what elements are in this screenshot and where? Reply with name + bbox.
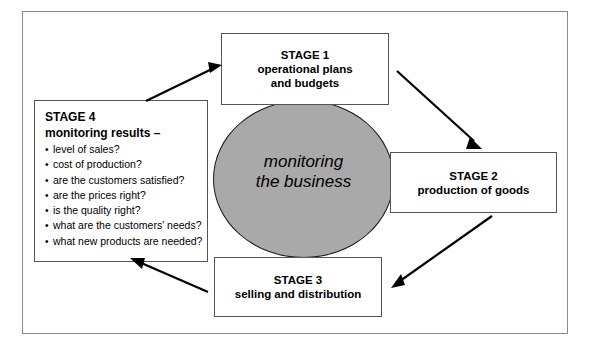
stage-box-stage4[interactable]: STAGE 4 monitoring results – level of sa… bbox=[34, 100, 208, 262]
list-item: is the quality right? bbox=[45, 203, 207, 218]
stage-box-stage2[interactable]: STAGE 2 production of goods bbox=[390, 152, 557, 213]
center-circle-label: monitoring the business bbox=[213, 152, 394, 192]
stage3-line2: selling and distribution bbox=[235, 287, 362, 301]
stage1-heading: STAGE 1 bbox=[281, 48, 329, 62]
stage2-heading: STAGE 2 bbox=[449, 169, 497, 183]
stage-box-stage1[interactable]: STAGE 1 operational plans and budgets bbox=[221, 33, 389, 105]
center-label-line2: the business bbox=[213, 172, 394, 192]
stage1-line3: and budgets bbox=[271, 76, 339, 90]
stage1-line2: operational plans bbox=[257, 62, 352, 76]
diagram-page: monitoring the business STAGE 1 operatio… bbox=[0, 0, 591, 352]
stage4-subheading: monitoring results – bbox=[45, 126, 207, 142]
list-item: what new products are needed? bbox=[45, 234, 207, 249]
list-item: what are the customers' needs? bbox=[45, 218, 207, 233]
center-label-line1: monitoring bbox=[213, 152, 394, 172]
stage-box-stage3[interactable]: STAGE 3 selling and distribution bbox=[214, 257, 382, 317]
list-item: are the customers satisfied? bbox=[45, 173, 207, 188]
list-item: cost of production? bbox=[45, 157, 207, 172]
list-item: are the prices right? bbox=[45, 188, 207, 203]
stage2-line2: production of goods bbox=[418, 183, 530, 197]
stage3-heading: STAGE 3 bbox=[274, 273, 322, 287]
stage4-bullet-list: level of sales? cost of production? are … bbox=[45, 142, 207, 249]
stage4-heading: STAGE 4 bbox=[45, 110, 207, 126]
list-item: level of sales? bbox=[45, 142, 207, 157]
